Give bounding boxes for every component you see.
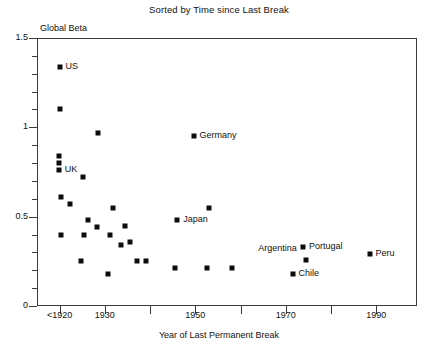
y-axis-minor-tick xyxy=(32,56,37,57)
scatter-chart: Sorted by Time since Last Break Global B… xyxy=(0,0,438,354)
data-point-label-portugal: Portugal xyxy=(309,241,343,251)
x-axis-tick-label: 1950 xyxy=(185,310,205,320)
x-axis-tick-label: <1920 xyxy=(47,310,72,320)
data-point-us xyxy=(57,64,62,69)
data-point xyxy=(106,271,111,276)
y-axis-tick xyxy=(29,217,37,218)
x-axis-tick-label: 1930 xyxy=(95,310,115,320)
data-point xyxy=(95,225,100,230)
x-axis-label: Year of Last Permanent Break xyxy=(0,330,438,340)
data-point xyxy=(96,130,101,135)
data-point xyxy=(123,223,128,228)
data-point xyxy=(172,266,177,271)
y-axis-minor-tick xyxy=(32,288,37,289)
data-point-label-uk: UK xyxy=(65,164,78,174)
data-point xyxy=(58,232,63,237)
data-point-label-chile: Chile xyxy=(299,268,320,278)
data-point-argentina xyxy=(304,257,309,262)
data-point xyxy=(111,205,116,210)
y-axis-minor-tick xyxy=(32,270,37,271)
data-point-germany xyxy=(191,134,196,139)
data-point xyxy=(81,175,86,180)
data-point-label-peru: Peru xyxy=(376,248,395,258)
data-point xyxy=(81,232,86,237)
data-point xyxy=(204,266,209,271)
data-point xyxy=(56,161,61,166)
y-axis-minor-tick xyxy=(32,252,37,253)
x-axis-tick-label: 1990 xyxy=(366,310,386,320)
data-point xyxy=(58,195,63,200)
y-axis-tick xyxy=(29,127,37,128)
data-point xyxy=(143,259,148,264)
y-axis-minor-tick xyxy=(32,199,37,200)
y-axis-minor-tick xyxy=(32,92,37,93)
data-point-label-argentina: Argentina xyxy=(258,243,297,253)
x-axis-minor-tick xyxy=(331,306,332,314)
y-axis-minor-tick xyxy=(32,74,37,75)
data-point xyxy=(56,153,61,158)
x-axis-tick-label: 1970 xyxy=(276,310,296,320)
y-axis-tick-label: 1.5 xyxy=(0,32,28,42)
y-axis-minor-tick xyxy=(32,235,37,236)
data-point xyxy=(206,205,211,210)
data-point-uk xyxy=(56,168,61,173)
data-point xyxy=(85,218,90,223)
chart-title: Sorted by Time since Last Break xyxy=(0,4,438,15)
x-axis-minor-tick xyxy=(150,306,151,314)
y-axis-tick-label: 1 xyxy=(0,121,28,131)
y-axis-minor-tick xyxy=(32,181,37,182)
data-point-label-us: US xyxy=(66,61,79,71)
data-point xyxy=(135,259,140,264)
x-axis-minor-tick xyxy=(241,306,242,314)
data-point-label-japan: Japan xyxy=(183,214,208,224)
y-axis-minor-tick xyxy=(32,109,37,110)
data-point xyxy=(229,266,234,271)
y-axis-tick xyxy=(29,306,37,307)
y-axis-minor-tick xyxy=(32,145,37,146)
y-axis-tick-label: 0 xyxy=(0,300,28,310)
y-axis-minor-tick xyxy=(32,163,37,164)
plot-area xyxy=(37,38,417,306)
y-axis-label: Global Beta xyxy=(40,23,87,33)
y-axis-tick-label: 0.5 xyxy=(0,211,28,221)
data-point xyxy=(108,232,113,237)
data-point xyxy=(127,239,132,244)
data-point-chile xyxy=(290,271,295,276)
data-point xyxy=(67,202,72,207)
data-point-label-germany: Germany xyxy=(200,130,237,140)
y-axis-tick xyxy=(29,38,37,39)
data-point-japan xyxy=(175,218,180,223)
data-point-portugal xyxy=(301,245,306,250)
data-point-peru xyxy=(367,252,372,257)
data-point xyxy=(79,259,84,264)
data-point xyxy=(57,107,62,112)
data-point xyxy=(118,243,123,248)
